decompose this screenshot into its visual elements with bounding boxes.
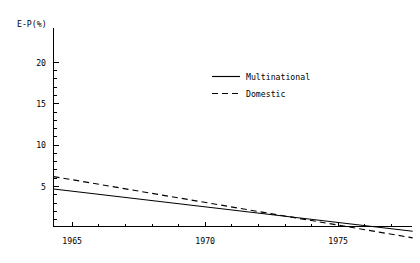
y-axis-title: E-P(%) [17,19,47,29]
x-tick-label-1965: 1965 [62,236,82,246]
legend-label-domestic: Domestic [246,89,286,99]
x-tick-label-1975: 1975 [328,236,348,246]
y-tick-label-20: 20 [36,58,46,68]
chart-container: E-P(%) 20 15 10 5 [0,0,420,263]
series-line-domestic [54,177,413,238]
line-chart: E-P(%) 20 15 10 5 [0,0,420,263]
y-tick-label-5: 5 [41,182,46,192]
series-line-multinational [54,189,413,231]
x-tick-label-1970: 1970 [195,236,215,246]
legend-label-multinational: Multinational [246,72,310,82]
y-tick-label-15: 15 [36,99,46,109]
y-tick-label-10: 10 [36,140,46,150]
legend: Multinational Domestic [212,72,310,99]
